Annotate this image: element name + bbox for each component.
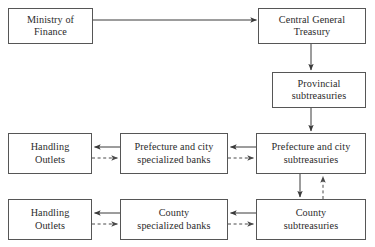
node-label: Ministry of Finance [27,14,74,39]
node-label: Prefecture and city specialized banks [135,141,214,166]
node-label: Prefecture and city subtreasuries [272,141,351,166]
node-county-specialized-banks: County specialized banks [120,199,228,240]
node-central-general-treasury: Central General Treasury [258,8,366,44]
node-label: County specialized banks [137,207,210,232]
node-handling-outlets-county: Handling Outlets [8,199,92,240]
node-label: County subtreasuries [284,207,339,232]
node-label: Provincial subtreasuries [292,78,347,103]
node-label: Handling Outlets [31,141,70,166]
node-handling-outlets-prefecture: Handling Outlets [8,133,92,174]
node-label: Central General Treasury [279,14,345,39]
node-prefecture-city-subtreasuries: Prefecture and city subtreasuries [256,133,366,174]
node-provincial-subtreasuries: Provincial subtreasuries [272,72,366,108]
node-prefecture-city-specialized-banks: Prefecture and city specialized banks [120,133,228,174]
node-label: Handling Outlets [31,207,70,232]
node-county-subtreasuries: County subtreasuries [256,199,366,240]
node-ministry-of-finance: Ministry of Finance [8,8,93,44]
flowchart-diagram: Ministry of Finance Central General Trea… [0,0,375,247]
